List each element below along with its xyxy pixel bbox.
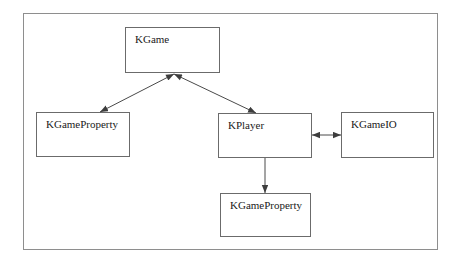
class-label-kgameproperty-bottom: KGameProperty (230, 199, 302, 212)
class-box-kgameio: KGameIO (341, 112, 434, 158)
class-diagram-screenshot: KGame KGameProperty KPlayer KGameIO KGam… (0, 0, 458, 263)
class-label-kgame: KGame (135, 33, 169, 46)
class-label-kgameproperty-left: KGameProperty (46, 118, 118, 131)
class-label-kgameio: KGameIO (351, 118, 397, 131)
class-label-kplayer: KPlayer (228, 119, 264, 132)
class-box-kgameproperty-bottom: KGameProperty (220, 193, 311, 237)
class-box-kgame: KGame (125, 27, 220, 73)
class-box-kplayer: KPlayer (218, 113, 312, 158)
class-box-kgameproperty-left: KGameProperty (36, 112, 130, 157)
